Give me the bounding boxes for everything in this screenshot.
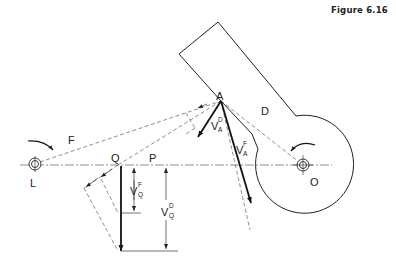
label-d: D (261, 105, 269, 117)
svg-text:Q: Q (169, 212, 174, 220)
link-d-outline (179, 22, 354, 213)
svg-text:D: D (169, 202, 174, 209)
pivot-l-icon (29, 156, 41, 172)
label-va-f: V F A (236, 140, 248, 157)
label-o: O (310, 176, 319, 188)
label-vq-f: V F Q (130, 181, 143, 199)
svg-text:V: V (130, 185, 138, 197)
mechanism-diagram: L O A D F Q P V D A V F A V F Q V D Q (0, 0, 396, 263)
label-va-d: V D A (211, 116, 223, 133)
svg-text:D: D (218, 116, 223, 123)
label-q: Q (111, 152, 120, 164)
small-arrow-icon (101, 169, 112, 177)
label-l: L (30, 177, 36, 189)
svg-text:F: F (138, 181, 142, 188)
svg-text:V: V (161, 206, 169, 218)
rotation-arrow-o-icon (291, 143, 315, 151)
small-arrow-icon (86, 178, 98, 187)
construction-lines (40, 101, 299, 251)
svg-text:A: A (243, 150, 248, 157)
svg-text:F: F (243, 140, 247, 147)
dimension-vq-d (121, 168, 178, 251)
label-a: A (216, 90, 224, 102)
svg-text:A: A (218, 126, 223, 133)
label-p: P (149, 152, 156, 164)
label-f: F (68, 134, 75, 146)
pivot-o-icon (293, 155, 313, 175)
label-vq-d: V D Q (161, 202, 174, 220)
svg-text:Q: Q (138, 191, 143, 199)
rotation-arrow-l-icon (28, 141, 53, 150)
